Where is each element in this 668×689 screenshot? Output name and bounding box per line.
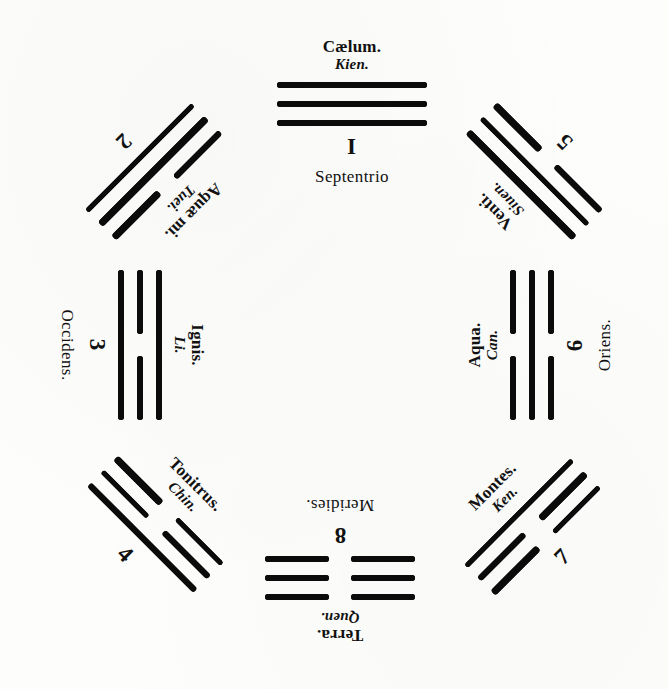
line-segment bbox=[265, 556, 329, 562]
line-segment bbox=[548, 270, 554, 334]
line-segment bbox=[351, 594, 415, 600]
line-segment bbox=[552, 485, 601, 534]
trigram-name-bottom: Terra.Quen. bbox=[317, 609, 363, 645]
trigram-numeral-top-right: 5 bbox=[552, 129, 577, 154]
trigram-latin-name: Aqua. bbox=[465, 323, 484, 368]
line-segment bbox=[493, 103, 543, 153]
cardinal-label-right: Oriens. bbox=[595, 319, 615, 371]
trigram-name-top: Cælum.Kien. bbox=[323, 37, 381, 73]
trigram-line-solid bbox=[277, 101, 427, 107]
trigram-latin-name: Terra. bbox=[317, 626, 363, 645]
trigram-numeral-bottom-left: 4 bbox=[113, 542, 138, 567]
cardinal-label-top: Septentrio bbox=[315, 167, 389, 187]
trigram-lines-top-right bbox=[466, 103, 603, 240]
line-segment bbox=[118, 270, 125, 420]
trigram-latin-name: Ignis. bbox=[188, 324, 207, 365]
trigram-numeral-top-left: 2 bbox=[111, 129, 136, 154]
line-segment bbox=[554, 164, 603, 213]
line-segment bbox=[277, 120, 427, 127]
trigram-line-broken bbox=[265, 575, 415, 581]
trigram-latin-name: Cælum. bbox=[323, 37, 381, 56]
line-segment bbox=[277, 82, 427, 88]
cardinal-label-bottom: Meridies. bbox=[306, 495, 374, 515]
trigram-line-solid bbox=[277, 120, 427, 126]
trigram-line-broken bbox=[265, 594, 415, 600]
trigram-line-solid bbox=[277, 82, 427, 88]
trigram-numeral-right: 6 bbox=[563, 339, 586, 352]
line-segment bbox=[477, 532, 526, 581]
trigram-bottom: Terra.Quen.8Meridies. bbox=[235, 465, 445, 675]
line-segment bbox=[137, 270, 143, 334]
line-segment bbox=[351, 575, 415, 582]
line-segment bbox=[161, 530, 210, 579]
trigram-numeral-top: I bbox=[347, 135, 357, 158]
line-segment bbox=[265, 594, 329, 601]
trigram-name-left: Ignis.Li. bbox=[171, 324, 207, 365]
line-segment bbox=[277, 101, 427, 107]
cardinal-label-left: Occidens. bbox=[57, 309, 77, 380]
line-segment bbox=[510, 270, 517, 334]
trigram-numeral-bottom: 8 bbox=[334, 524, 347, 547]
trigram-numeral-bottom-right: 7 bbox=[550, 544, 575, 569]
trigram-line-broken bbox=[265, 556, 415, 562]
line-segment bbox=[538, 471, 588, 521]
line-segment bbox=[491, 545, 541, 595]
line-segment bbox=[100, 470, 149, 519]
trigram-romanized-name: Li. bbox=[171, 324, 188, 365]
trigram-lines-top bbox=[277, 82, 427, 126]
trigram-name-right: Aqua.Can. bbox=[465, 323, 501, 368]
line-segment bbox=[351, 556, 415, 562]
line-segment bbox=[265, 575, 329, 581]
trigram-romanized-name: Kien. bbox=[323, 56, 381, 73]
trigram-romanized-name: Quen. bbox=[317, 609, 363, 626]
trigram-numeral-left: 3 bbox=[86, 339, 109, 352]
trigram-line-solid bbox=[118, 270, 124, 420]
trigram-romanized-name: Can. bbox=[484, 323, 501, 368]
trigram-lines-bottom bbox=[265, 556, 415, 600]
